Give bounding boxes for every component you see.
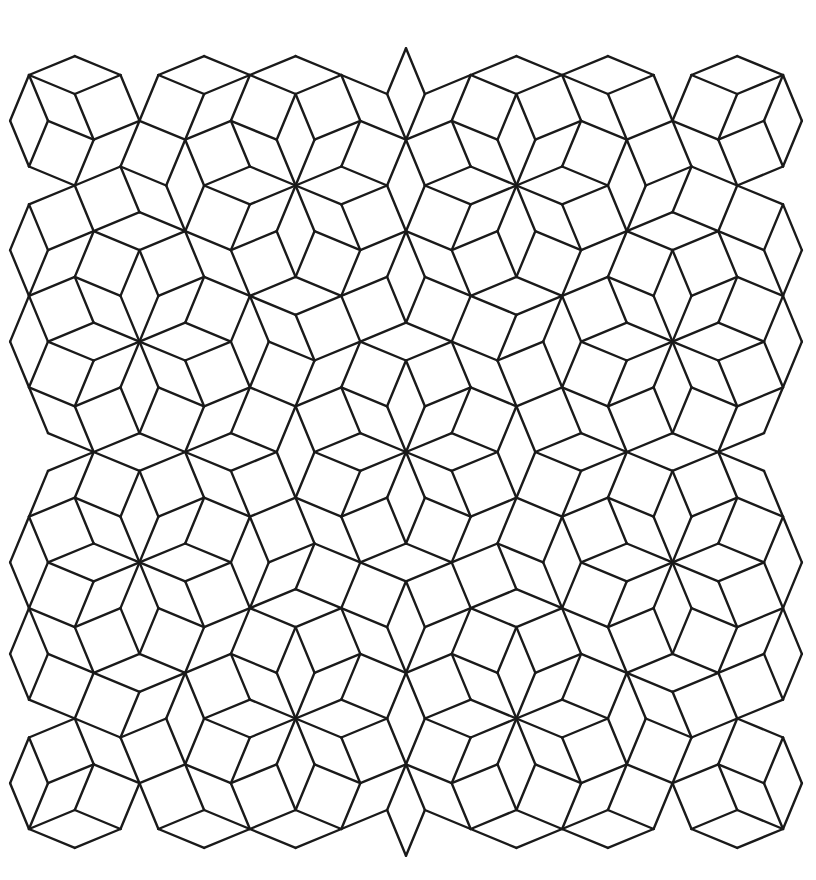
tile-edge	[406, 719, 425, 765]
tile-edge	[406, 323, 452, 342]
tile-edge	[718, 342, 764, 361]
tile-edge	[627, 719, 646, 765]
tile-edge	[654, 608, 673, 654]
tile-edge	[471, 829, 517, 848]
tile-edge	[516, 231, 535, 277]
tile-edge	[75, 186, 94, 232]
tile-edge	[315, 452, 361, 471]
tile-edge	[737, 186, 783, 205]
tile-edge	[341, 296, 360, 342]
tile-edge	[452, 562, 471, 608]
tile-edge	[166, 140, 185, 186]
tile-edge	[185, 323, 231, 342]
tile-edge	[471, 810, 517, 829]
tile-edge	[516, 387, 562, 406]
tile-edge	[250, 56, 296, 75]
tile-edge	[387, 48, 406, 94]
tile-edge	[452, 433, 498, 452]
tile-edge	[783, 204, 802, 250]
tile-edge	[387, 719, 406, 765]
tile-edge	[562, 719, 608, 738]
tile-edge	[471, 296, 517, 315]
tile-edge	[121, 471, 140, 517]
tile-edge	[783, 783, 802, 829]
tile-edge	[718, 562, 764, 581]
tile-edge	[516, 277, 562, 296]
tile-edge	[296, 94, 315, 140]
tile-edge	[425, 719, 471, 738]
tile-edge	[204, 186, 250, 205]
tile-edge	[296, 75, 342, 94]
tile-edge	[673, 452, 719, 471]
tile-edge	[673, 673, 719, 692]
tile-edge	[452, 452, 498, 471]
tile-edge	[250, 277, 296, 296]
tile-edge	[562, 296, 581, 342]
tile-edge	[516, 56, 562, 75]
tile-edge	[296, 627, 315, 673]
tile-edge	[783, 654, 802, 700]
tile-edge	[360, 323, 406, 342]
tile-edge	[296, 231, 315, 277]
tile-edge	[387, 277, 406, 323]
tile-edge	[562, 167, 608, 186]
tile-edge	[406, 581, 425, 627]
tile-edge	[185, 544, 231, 563]
tiling-drawing	[0, 0, 816, 880]
tile-edge	[608, 829, 654, 848]
tile-edge	[296, 608, 342, 627]
tile-edge	[764, 204, 783, 250]
tile-edge	[277, 627, 296, 673]
tile-edge	[94, 452, 140, 471]
tile-edge	[764, 517, 783, 563]
tile-edge	[48, 562, 94, 581]
tile-edge	[94, 231, 140, 250]
tile-edge	[231, 296, 250, 342]
tile-edge	[737, 700, 783, 719]
tile-edge	[231, 517, 250, 563]
tile-edge	[48, 544, 94, 563]
tile-edge	[406, 140, 425, 186]
tile-edge	[341, 167, 387, 186]
tile-edge	[406, 48, 425, 94]
tile-edge	[231, 433, 277, 452]
tile-edge	[140, 452, 186, 471]
tile-edge	[562, 562, 581, 608]
tile-edge	[75, 673, 94, 719]
tile-edge	[608, 75, 654, 94]
tile-edge	[516, 810, 562, 829]
tile-edge	[654, 471, 673, 517]
tile-edge	[627, 654, 673, 673]
tile-edge	[516, 764, 535, 810]
tile-edge	[140, 433, 186, 452]
tile-edge	[29, 342, 48, 388]
tile-edge	[250, 608, 296, 627]
tile-edge	[94, 212, 140, 231]
tile-edge	[75, 56, 121, 75]
tile-edge	[29, 121, 48, 167]
tile-edge	[581, 323, 627, 342]
tile-edge	[425, 700, 471, 719]
tile-edge	[498, 231, 517, 277]
tile-edge	[562, 56, 608, 75]
tile-edge	[498, 764, 517, 810]
tile-edge	[562, 342, 581, 388]
tile-edge	[185, 140, 204, 186]
tile-edge	[121, 387, 140, 433]
tile-edge	[764, 296, 783, 342]
tile-edge	[121, 608, 140, 654]
tile-edge	[673, 212, 719, 231]
tile-edge	[29, 296, 48, 342]
tile-edge	[783, 75, 802, 121]
tile-edge	[29, 517, 48, 563]
tile-edge	[387, 581, 406, 627]
tile-edge	[498, 406, 517, 452]
tile-edge	[783, 738, 802, 784]
tile-edge	[425, 167, 471, 186]
tile-edge	[10, 121, 29, 167]
tile-edge	[535, 433, 581, 452]
tile-edge	[562, 186, 608, 205]
tile-edge	[29, 654, 48, 700]
tile-edge	[48, 342, 94, 361]
tile-edge	[360, 544, 406, 563]
